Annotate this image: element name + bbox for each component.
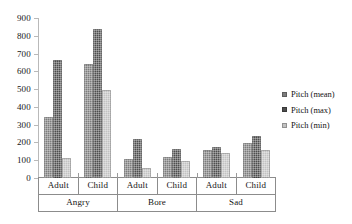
bar [133,139,142,178]
bar [163,157,172,178]
chart-legend: Pitch (mean)Pitch (max)Pitch (min) [282,90,335,130]
x-axis-emotion-label: Bore [117,195,196,211]
bar-subgroup [117,18,157,178]
y-axis-tick-label: 400 [17,102,31,111]
legend-swatch-max [282,107,287,112]
bar [212,147,221,178]
bar [53,60,62,178]
bar [243,143,252,178]
bar-subgroup [38,18,78,178]
bar [44,117,53,178]
plot-area: 9008007006005004003002001000 [38,18,276,178]
legend-swatch-mean [282,92,287,97]
x-axis-age-label: Child [236,178,276,194]
legend-item[interactable]: Pitch (min) [282,121,335,130]
bar-subgroup [197,18,237,178]
x-axis-age-label: Child [78,178,118,194]
y-axis-tick-label: 600 [17,67,31,76]
x-axis-emotion-row: AngryBoreSad [39,195,275,211]
y-axis-tick-label: 300 [17,120,31,129]
bar [181,161,190,178]
bar [142,168,151,178]
bar [102,90,111,178]
y-axis-tick-label: 500 [17,85,31,94]
legend-item[interactable]: Pitch (mean) [282,90,335,99]
x-axis-emotion-label: Angry [39,195,117,211]
bar-subgroup [236,18,276,178]
x-axis-age-label: Adult [39,178,78,194]
bar [124,159,133,178]
legend-swatch-min [282,123,287,128]
bar [203,150,212,178]
y-axis-tick-label: 0 [26,174,31,183]
bar-groups [38,18,276,178]
y-axis-tick-label: 100 [17,156,31,165]
x-axis-label-table: AdultChildAdultChildAdultChild AngryBore… [38,178,276,212]
x-axis-age-label: Adult [196,178,236,194]
bar-chart: 9008007006005004003002001000 AdultChildA… [0,0,352,224]
bar [172,149,181,178]
legend-item-label: Pitch (max) [291,106,331,115]
bar [62,158,71,178]
bar [261,150,270,178]
legend-item-label: Pitch (mean) [291,90,335,99]
bar [252,136,261,178]
bar [93,29,102,178]
bar-subgroup [157,18,197,178]
x-axis-age-row: AdultChildAdultChildAdultChild [39,178,275,195]
bar-subgroup [78,18,118,178]
legend-item[interactable]: Pitch (max) [282,106,335,115]
x-axis-emotion-label: Sad [196,195,275,211]
x-axis-age-label: Adult [117,178,157,194]
bar [84,64,93,178]
x-axis-age-label: Child [157,178,197,194]
y-axis-tick-label: 200 [17,138,31,147]
y-axis-tick-label: 800 [17,31,31,40]
bar [221,153,230,178]
y-axis-tick-label: 700 [17,49,31,58]
y-axis-tick-label: 900 [17,14,31,23]
legend-item-label: Pitch (min) [291,121,329,130]
